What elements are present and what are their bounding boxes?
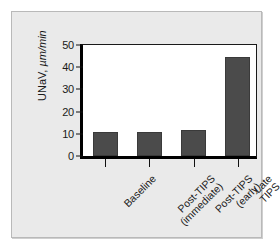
- x-axis-tick: [105, 159, 106, 167]
- x-axis-tick: [194, 159, 195, 167]
- x-axis-category-label: Late TIPS: [250, 173, 274, 205]
- y-axis-title-name: UNaV,: [36, 70, 48, 101]
- y-axis-tick: [76, 45, 83, 46]
- y-axis-tick-label: 0: [68, 150, 74, 162]
- x-axis-category-label: Baseline: [122, 173, 158, 209]
- y-axis-tick-label: 50: [62, 39, 74, 51]
- y-axis-tick-label: 40: [62, 61, 74, 73]
- y-axis-tick: [76, 156, 83, 157]
- y-axis-title: UNaV, µm/min: [36, 30, 48, 101]
- y-axis-title-units: µm/min: [36, 30, 48, 69]
- figure-root: UNaV, µm/min 0 10 20 30 40 50: [0, 0, 274, 249]
- y-axis-tick: [76, 133, 83, 134]
- chart-panel: UNaV, µm/min 0 10 20 30 40 50: [11, 11, 262, 238]
- y-axis-tick: [76, 111, 83, 112]
- y-axis-tick-label: 10: [62, 128, 74, 140]
- x-axis-tick: [149, 159, 150, 167]
- y-axis-tick-label: 30: [62, 83, 74, 95]
- y-axis-tick: [76, 67, 83, 68]
- y-axis-tick-label: 20: [62, 106, 74, 118]
- bar: [181, 130, 206, 156]
- plot-area: 0 10 20 30 40 50: [80, 44, 257, 159]
- bar: [93, 132, 118, 156]
- y-axis-tick: [76, 89, 83, 90]
- bar: [137, 132, 162, 156]
- bar: [225, 57, 250, 156]
- x-axis-category-label: Post-TIPS (early): [213, 173, 262, 222]
- x-axis-tick: [238, 159, 239, 167]
